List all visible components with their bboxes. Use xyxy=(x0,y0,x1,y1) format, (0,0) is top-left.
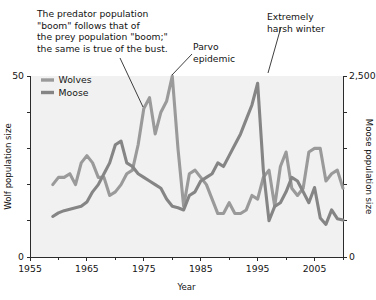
legend-label-wolves: Wolves xyxy=(59,74,92,85)
annotation-leader-line xyxy=(268,27,281,73)
x-tick-label: 1995 xyxy=(246,263,270,274)
annotation-line: The predator population xyxy=(36,8,149,19)
right-tick-label: 2,500 xyxy=(349,70,376,81)
wolf-moose-line-chart: 050 02,500 195519651975198519952005 The … xyxy=(0,0,376,300)
annotation-line: the same is true of the bust. xyxy=(37,43,168,54)
annotation-line: "boom" follows that of xyxy=(37,20,140,31)
plot-area-background xyxy=(30,76,343,257)
annotation-line: epidemic xyxy=(193,53,235,64)
x-tick-label: 1955 xyxy=(18,263,42,274)
x-tick-label: 1965 xyxy=(75,263,99,274)
right-tick-label: 0 xyxy=(349,251,355,262)
x-tick-label: 2005 xyxy=(303,263,327,274)
annotation-line: harsh winter xyxy=(267,23,325,34)
legend-label-moose: Moose xyxy=(59,87,89,98)
annotation-parvo-epidemic: Parvoepidemic xyxy=(172,41,235,75)
x-tick-label: 1975 xyxy=(132,263,156,274)
annotation-line: the prey population "boom;" xyxy=(37,31,168,42)
left-axis-title: Wolf population size xyxy=(3,123,13,210)
x-axis-ticks xyxy=(30,257,343,261)
left-axis-ticks xyxy=(27,76,31,257)
annotation-line: Parvo xyxy=(193,41,219,52)
x-axis-tick-labels: 195519651975198519952005 xyxy=(18,263,326,274)
annotation-leader-line xyxy=(172,54,192,75)
x-axis-title: Year xyxy=(176,282,196,292)
chart-figure: 050 02,500 195519651975198519952005 The … xyxy=(0,0,376,300)
left-axis-tick-labels: 050 xyxy=(12,70,24,262)
annotation-line: Extremely xyxy=(267,11,314,22)
left-tick-label: 0 xyxy=(18,251,24,262)
x-tick-label: 1985 xyxy=(189,263,213,274)
right-axis-title: Moose population size xyxy=(364,119,374,215)
annotation-harsh-winter: Extremelyharsh winter xyxy=(267,11,325,73)
right-axis-ticks xyxy=(343,76,347,257)
left-tick-label: 50 xyxy=(12,70,24,81)
